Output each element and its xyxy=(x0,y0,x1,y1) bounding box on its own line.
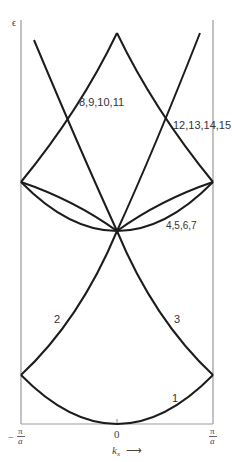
band-label-12-15: 12,13,14,15 xyxy=(173,119,231,131)
band-3-lower xyxy=(117,231,213,375)
band-3-upper xyxy=(21,182,117,231)
band-label-2: 2 xyxy=(54,313,60,325)
x-axis-subscript: x xyxy=(117,450,120,458)
band-upper-left-steep xyxy=(34,40,117,231)
tick-left-sign: − xyxy=(8,432,14,443)
band-label-4-7: 4,5,6,7 xyxy=(166,220,197,231)
x-axis-label: kx ⟶ xyxy=(112,440,142,458)
y-axis-label: ϵ xyxy=(12,17,16,28)
tick-left-den: a xyxy=(18,436,23,446)
tick-right-num: π xyxy=(210,426,215,436)
band-2-lower xyxy=(21,231,117,375)
tick-right-den: a xyxy=(210,436,215,446)
band-label-8-11: 8,9,10,11 xyxy=(79,96,124,108)
band-structure-diagram xyxy=(0,0,232,462)
band-upper-right-steep xyxy=(117,33,200,231)
band-2-upper xyxy=(117,182,213,231)
band-1-curve xyxy=(21,375,213,424)
tick-right: π a xyxy=(209,426,221,448)
tick-center: 0 xyxy=(114,428,120,440)
tick-left: − π a xyxy=(8,426,28,448)
band-12-15-falling xyxy=(117,33,213,182)
band-label-3: 3 xyxy=(174,313,180,325)
x-axis-arrow-icon: ⟶ xyxy=(126,444,142,456)
tick-left-num: π xyxy=(18,426,23,436)
band-label-1: 1 xyxy=(172,392,178,404)
